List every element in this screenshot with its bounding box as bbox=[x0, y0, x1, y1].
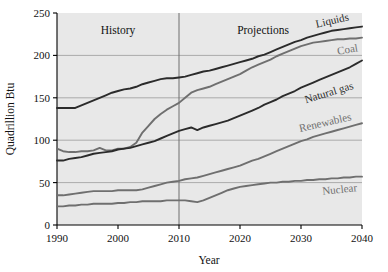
energy-consumption-chart: 050100150200250 199020002010202020302040… bbox=[0, 0, 388, 272]
x-tick-label: 2030 bbox=[290, 232, 313, 244]
y-tick-label: 150 bbox=[34, 92, 51, 104]
y-tick-label: 250 bbox=[34, 7, 51, 19]
y-axis-title: Quadrillion Btu bbox=[4, 82, 16, 155]
y-tick-label: 0 bbox=[45, 219, 51, 231]
x-tick-label: 2040 bbox=[351, 232, 374, 244]
y-tick-label: 50 bbox=[39, 177, 51, 189]
x-tick-label: 2010 bbox=[168, 232, 191, 244]
projections-annotation: Projections bbox=[237, 24, 289, 37]
y-tick-label: 200 bbox=[34, 49, 51, 61]
y-tick-label: 100 bbox=[34, 134, 51, 146]
x-axis-title: Year bbox=[198, 254, 219, 266]
x-tick-label: 2000 bbox=[107, 232, 130, 244]
history-annotation: History bbox=[101, 24, 136, 37]
x-tick-label: 1990 bbox=[46, 232, 69, 244]
x-tick-label: 2020 bbox=[229, 232, 252, 244]
